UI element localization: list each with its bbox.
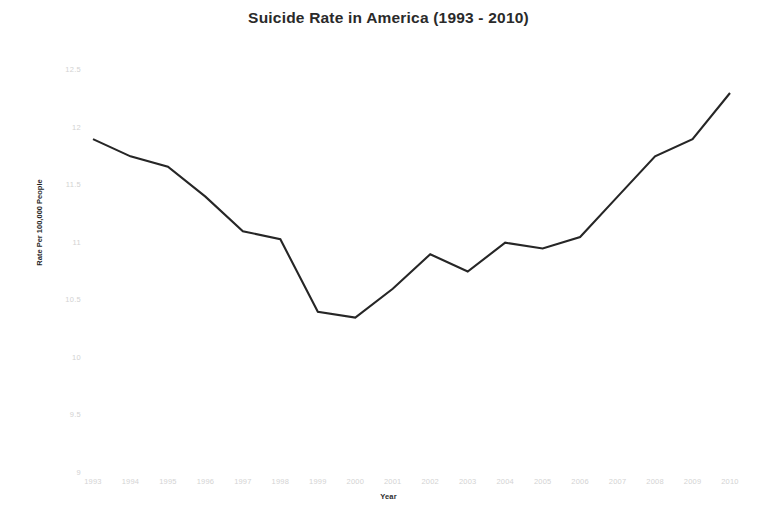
line-chart: Suicide Rate in America (1993 - 2010) Ra…: [0, 0, 777, 506]
data-series-line: [93, 93, 730, 318]
series-plot: [0, 0, 777, 506]
